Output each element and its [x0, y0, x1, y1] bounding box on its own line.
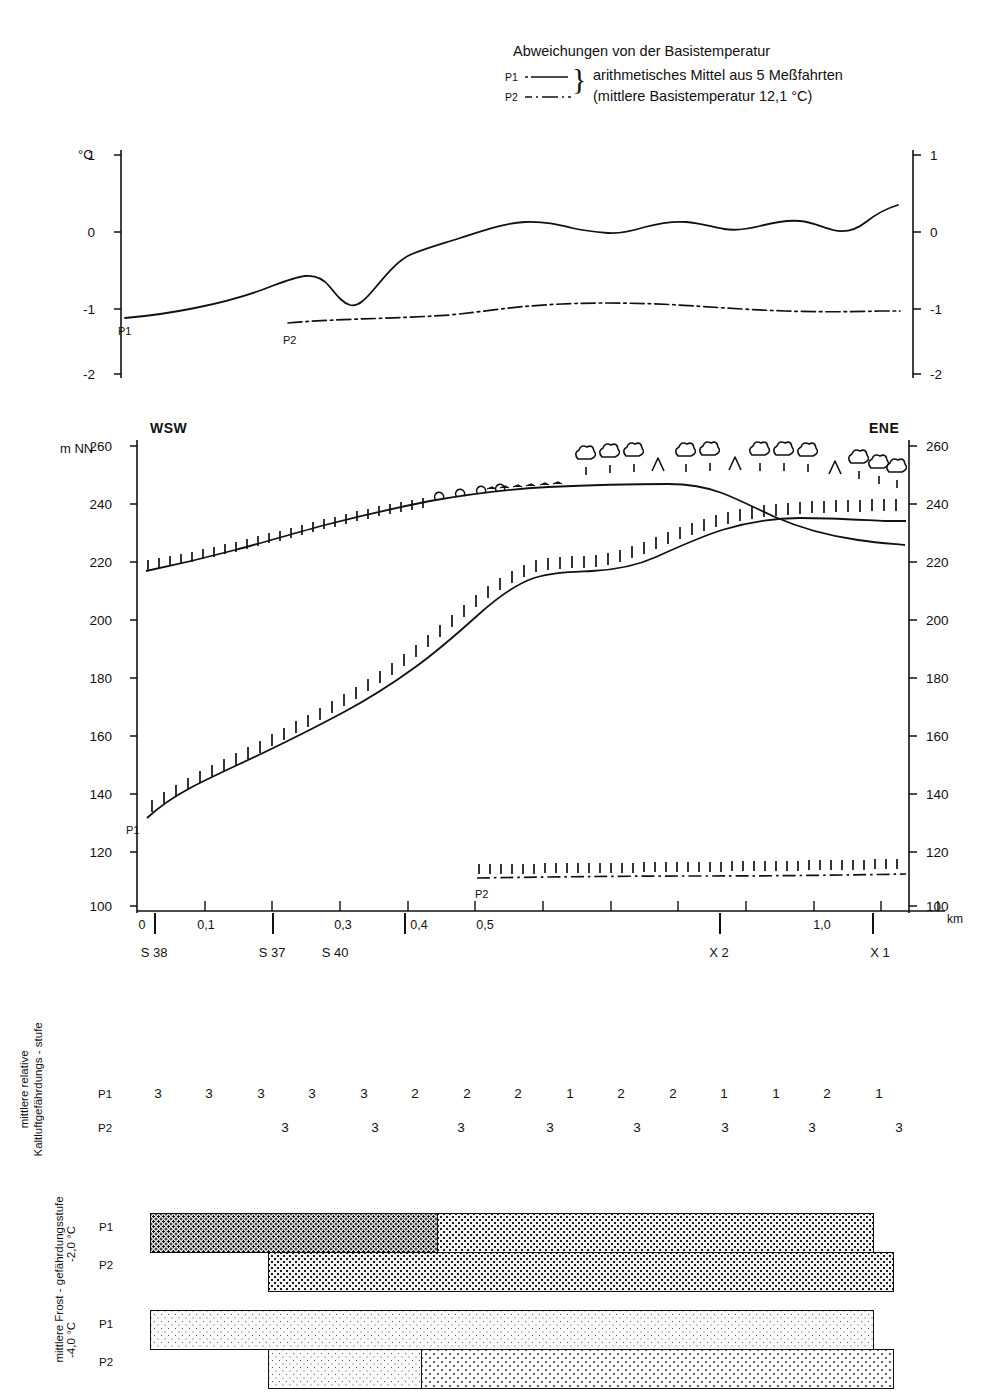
kaltluft-p1-value: 3	[308, 1086, 316, 1101]
profile-xtick-0-4: 0,4	[410, 918, 427, 932]
elevation-profile-chart: m NN WSW ENE P1 P2 km 260 240 220 200 18…	[0, 0, 993, 1000]
kaltluft-p1-value: 3	[154, 1086, 162, 1101]
profile-ytick-right-240: 240	[926, 497, 949, 512]
kaltluft-p2-value: 3	[895, 1120, 903, 1135]
frost-row1-p1-tag: P1	[99, 1221, 113, 1233]
profile-p1-tag: P1	[126, 824, 139, 836]
kaltluft-row-p2-tag: P2	[98, 1122, 112, 1134]
frost-row2-p2-tag: P2	[99, 1356, 113, 1368]
station-tick-s38	[154, 913, 156, 934]
frost-bar-row1-p2	[268, 1252, 894, 1292]
station-label-s38: S 38	[141, 945, 168, 960]
kaltluft-p1-value: 1	[566, 1086, 574, 1101]
station-label-s40: S 40	[322, 945, 349, 960]
profile-ytick-right-220: 220	[926, 555, 949, 570]
kaltluft-p1-value: 2	[514, 1086, 522, 1101]
frost-row2-p1-tag: P1	[99, 1318, 113, 1330]
profile-ytick-220: 220	[89, 555, 112, 570]
frost-bar-row2-p2	[268, 1349, 894, 1389]
frost-bar-row1-p2-segment-mid	[269, 1253, 893, 1291]
kaltluft-p1-value: 3	[257, 1086, 265, 1101]
frost-row1-p2-tag: P2	[99, 1259, 113, 1271]
profile-lower-terrain-line	[147, 518, 906, 818]
kaltluft-p2-value: 3	[808, 1120, 816, 1135]
frost-bar-row1-p1	[150, 1213, 874, 1253]
profile-unit-label: m NN	[60, 441, 93, 456]
profile-upper-hatching	[148, 498, 423, 570]
kaltluft-p1-value: 2	[411, 1086, 419, 1101]
station-tick-x2	[719, 913, 721, 934]
profile-direction-wsw: WSW	[150, 420, 187, 436]
frost-bar-row2-p2-segment-lighter	[421, 1350, 893, 1388]
kaltluft-p1-value: 2	[617, 1086, 625, 1101]
profile-ytick-180: 180	[89, 671, 112, 686]
kaltluft-p2-value: 3	[457, 1120, 465, 1135]
kaltluft-p2-value: 3	[371, 1120, 379, 1135]
station-label-x1: X 1	[870, 945, 890, 960]
kaltluft-p2-value: 3	[721, 1120, 729, 1135]
profile-ytick-right-200: 200	[926, 613, 949, 628]
profile-upper-terrain-line	[146, 484, 905, 571]
kaltluft-p1-value: 2	[823, 1086, 831, 1101]
kaltluft-row-p1-tag: P1	[98, 1088, 112, 1100]
profile-p2-line	[477, 874, 906, 878]
profile-ytick-140: 140	[89, 787, 112, 802]
profile-x-minor-ticks	[205, 901, 938, 911]
frost-level-2-label: -4,0 °C	[65, 1317, 77, 1363]
kaltluft-p1-value: 1	[875, 1086, 883, 1101]
profile-tree-symbols	[576, 442, 907, 488]
elevation-chart-svg	[0, 0, 993, 1000]
profile-xtick-0-5: 0,5	[476, 918, 493, 932]
profile-xtick-0-1: 0,1	[197, 918, 214, 932]
kaltluft-p2-value: 3	[281, 1120, 289, 1135]
profile-ytick-100: 100	[89, 899, 112, 914]
frost-bar-row1-p1-segment-mid	[437, 1214, 873, 1252]
kaltluft-p1-value: 2	[463, 1086, 471, 1101]
profile-ytick-160: 160	[89, 729, 112, 744]
profile-p2-tag: P2	[475, 888, 488, 900]
profile-ytick-right-140: 140	[926, 787, 949, 802]
profile-xtick-0-3: 0,3	[334, 918, 351, 932]
profile-ytick-240: 240	[89, 497, 112, 512]
frost-bar-row1-p1-segment-dense	[151, 1214, 437, 1252]
profile-ytick-right-260: 260	[926, 439, 949, 454]
profile-p2-hatching	[479, 859, 897, 874]
station-tick-s37	[272, 913, 274, 934]
kaltluft-axis-label: mittlere relative Kaltluftgefährdungs - …	[17, 1014, 46, 1164]
profile-lower-hatching	[152, 499, 896, 812]
profile-ytick-200: 200	[89, 613, 112, 628]
kaltluft-p2-value: 3	[546, 1120, 554, 1135]
profile-x-unit-label: km	[947, 912, 963, 926]
profile-xtick-0: 0	[139, 918, 146, 932]
profile-ytick-120: 120	[89, 845, 112, 860]
kaltluft-p1-value: 2	[669, 1086, 677, 1101]
profile-ytick-260: 260	[89, 439, 112, 454]
frost-level-1-label: -2,0 °C	[65, 1221, 77, 1267]
profile-ytick-right-160: 160	[926, 729, 949, 744]
station-tick-x1	[872, 913, 874, 934]
kaltluft-p2-value: 3	[633, 1120, 641, 1135]
station-label-x2: X 2	[709, 945, 729, 960]
frost-bar-row2-p1	[150, 1310, 874, 1350]
kaltluft-p1-value: 3	[205, 1086, 213, 1101]
frost-bar-row2-p2-segment-light	[269, 1350, 421, 1388]
profile-xtick-1-0: 1,0	[813, 918, 830, 932]
frost-bar-row2-p1-segment-light	[151, 1311, 873, 1349]
profile-ytick-right-100: 100	[926, 899, 949, 914]
profile-ytick-right-180: 180	[926, 671, 949, 686]
profile-direction-ene: ENE	[869, 420, 899, 436]
kaltluft-p1-value: 3	[360, 1086, 368, 1101]
station-label-s37: S 37	[259, 945, 286, 960]
kaltluft-p1-value: 1	[720, 1086, 728, 1101]
kaltluft-p2-row: 3 3 3 3 3 3 3 3	[0, 0, 993, 1]
kaltluft-p1-value: 1	[772, 1086, 780, 1101]
profile-ytick-right-120: 120	[926, 845, 949, 860]
station-tick-s40	[404, 913, 406, 934]
